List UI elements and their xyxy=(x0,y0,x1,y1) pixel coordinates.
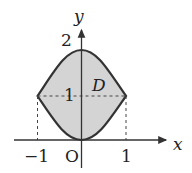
tick-y-1: 1 xyxy=(64,85,75,105)
tick-y-2: 2 xyxy=(61,30,72,50)
origin-label: O xyxy=(65,146,79,166)
region-label: D xyxy=(91,75,106,95)
x-axis-label: x xyxy=(173,134,183,154)
tick-x-neg1: −1 xyxy=(24,146,49,166)
region-diagram: y x 2 1 D −1 O 1 xyxy=(0,0,192,173)
y-axis-label: y xyxy=(73,6,84,26)
tick-x-1: 1 xyxy=(121,146,132,166)
